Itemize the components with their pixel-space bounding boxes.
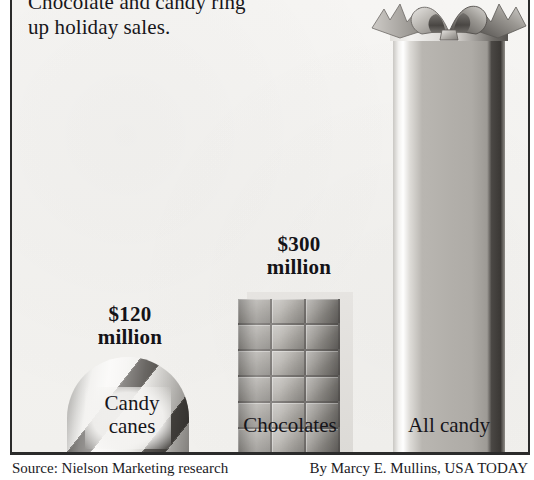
- chocolate-square: [272, 299, 306, 325]
- chocolate-square: [272, 377, 306, 403]
- chocolate-square: [306, 325, 340, 351]
- value-amount-chocolates: $300: [234, 233, 364, 256]
- value-unit-candy-canes: million: [68, 326, 192, 349]
- category-label-candy-canes-line-2: canes: [82, 415, 182, 438]
- value-label-candy-canes: $120 million: [68, 303, 192, 349]
- infographic-figure: Chocolate and candy ring up holiday sale…: [0, 0, 534, 480]
- category-label-all-candy: All candy: [399, 414, 499, 437]
- value-unit-chocolates: million: [234, 256, 364, 279]
- category-label-candy-canes: Candy canes: [82, 392, 182, 438]
- chocolate-square: [272, 351, 306, 377]
- category-label-all-candy-text: All candy: [399, 414, 499, 437]
- chocolate-square: [272, 325, 306, 351]
- chocolate-square: [238, 377, 272, 403]
- headline-line-1: Chocolate and candy ring: [28, 0, 328, 15]
- category-label-chocolates: Chocolates: [230, 414, 350, 437]
- value-amount-candy-canes: $120: [68, 303, 192, 326]
- headline: Chocolate and candy ring up holiday sale…: [28, 0, 328, 40]
- author-credit: By Marcy E. Mullins, USA TODAY: [310, 460, 529, 477]
- chocolate-square: [306, 377, 340, 403]
- gift-column-shape: [393, 38, 505, 455]
- category-label-candy-canes-line-1: Candy: [82, 392, 182, 415]
- chocolate-square: [238, 325, 272, 351]
- source-credit: Source: Nielson Marketing research: [12, 460, 228, 477]
- chart-panel: Chocolate and candy ring up holiday sale…: [10, 0, 530, 455]
- value-label-chocolates: $300 million: [234, 233, 364, 279]
- chocolate-square: [306, 299, 340, 325]
- bar-all-candy: [393, 38, 505, 455]
- chocolate-square: [238, 351, 272, 377]
- category-label-chocolates-text: Chocolates: [230, 414, 350, 437]
- chocolate-square: [306, 351, 340, 377]
- chocolate-square: [238, 299, 272, 325]
- headline-line-2: up holiday sales.: [28, 15, 328, 40]
- gift-bow-icon: [370, 0, 528, 42]
- footer: Source: Nielson Marketing research By Ma…: [0, 458, 534, 480]
